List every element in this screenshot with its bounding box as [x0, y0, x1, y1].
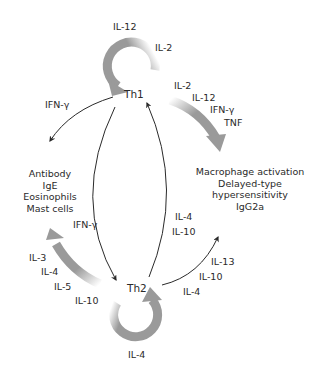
th1-loop-label-il2: IL-2	[155, 42, 172, 53]
th2-right-label-il10: IL-10	[199, 271, 222, 282]
th2-to-th1-label-il10: IL-10	[172, 226, 195, 237]
th1-effects-block: Macrophage activation Delayed-type hyper…	[180, 166, 319, 212]
th2-self-loop-arrow	[114, 287, 162, 337]
th2-effect-mast-cells: Mast cells	[10, 203, 90, 215]
th1-effect-igg2a: IgG2a	[180, 201, 319, 213]
th1-output-label-ifng: IFN-γ	[210, 104, 234, 115]
th2-to-th1-label-il4: IL-4	[175, 211, 192, 222]
th2-right-label-il4: IL-4	[183, 286, 200, 297]
th2-effect-antibody: Antibody	[10, 168, 90, 180]
th1-effect-macrophage: Macrophage activation	[180, 166, 319, 178]
th2-left-label-il5: IL-5	[54, 281, 71, 292]
th1-output-label-il12: IL-12	[192, 92, 215, 103]
th2-node: Th2	[127, 282, 147, 294]
th1-output-label-tnf: TNF	[224, 117, 242, 128]
th2-right-label-il13: IL-13	[211, 256, 234, 267]
th2-effects-block: Antibody IgE Eosinophils Mast cells	[10, 168, 90, 214]
th2-loop-label-il4: IL-4	[128, 349, 145, 360]
th2-effect-eosinophils: Eosinophils	[10, 191, 90, 203]
ifng-th1-to-th2-label: IFN-γ	[73, 219, 97, 230]
ifng-left-label: IFN-γ	[45, 99, 69, 110]
th2-left-label-il3: IL-3	[29, 252, 46, 263]
th2-to-th1-arrow	[147, 103, 167, 277]
th1-loop-label-il12: IL-12	[113, 21, 136, 32]
th2-effect-ige: IgE	[10, 180, 90, 192]
th1-node: Th1	[124, 88, 144, 100]
th2-left-label-il10: IL-10	[75, 295, 98, 306]
th1-output-label-il2: IL-2	[174, 80, 191, 91]
th2-left-label-il4: IL-4	[41, 266, 58, 277]
th1-to-th2-arrow	[93, 107, 116, 280]
th1-effect-dth: Delayed-type hypersensitivity	[180, 178, 319, 201]
